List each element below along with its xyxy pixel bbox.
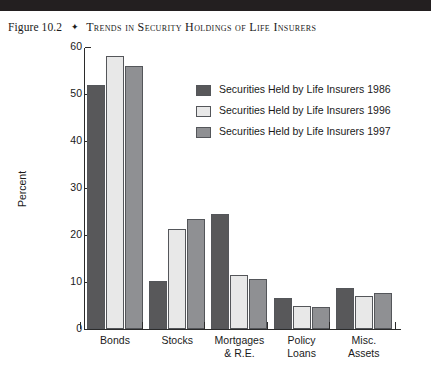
- figure-number: Figure 10.2: [8, 21, 62, 33]
- bar: [293, 306, 311, 329]
- diamond-icon: ✦: [62, 22, 86, 32]
- x-axis-tick-mark: [80, 322, 81, 329]
- page-header-rule: [0, 0, 431, 11]
- bar: [230, 275, 248, 329]
- legend-swatch: [196, 127, 211, 138]
- bar: [274, 298, 292, 329]
- legend-label: Securities Held by Life Insurers 1986: [219, 83, 391, 95]
- y-axis-title: Percent: [16, 171, 28, 207]
- x-axis-tick-mark: [267, 322, 268, 329]
- x-axis-tick-mark: [204, 322, 205, 329]
- chart-legend: Securities Held by Life Insurers 1986Sec…: [196, 83, 416, 146]
- bar: [211, 214, 229, 329]
- bar: [336, 288, 354, 329]
- y-axis-title-container: Percent: [26, 48, 46, 330]
- legend-swatch: [196, 106, 211, 117]
- x-axis-label-line: Assets: [319, 347, 409, 360]
- figure-page: Figure 10.2✦Trends in Security Holdings …: [0, 0, 431, 383]
- bar-chart: Percent 0102030405060 BondsStocksMortgag…: [0, 34, 431, 383]
- legend-swatch: [196, 85, 211, 96]
- figure-title: Trends in Security Holdings of Life Insu…: [86, 20, 316, 34]
- y-axis-tick-label: 50: [70, 87, 82, 99]
- bar: [187, 219, 205, 329]
- bar: [168, 229, 186, 329]
- legend-item: Securities Held by Life Insurers 1996: [196, 104, 416, 125]
- bar-group: [87, 47, 145, 329]
- bar: [106, 56, 124, 329]
- legend-item: Securities Held by Life Insurers 1997: [196, 125, 416, 146]
- y-axis-tick-label: 30: [70, 181, 82, 193]
- y-axis-tick-label: 60: [70, 40, 82, 52]
- y-axis-tick-label: 10: [70, 275, 82, 287]
- bar: [374, 293, 392, 329]
- legend-item: Securities Held by Life Insurers 1986: [196, 83, 416, 104]
- bar: [312, 307, 330, 329]
- legend-label: Securities Held by Life Insurers 1997: [219, 125, 391, 137]
- y-axis-tick-label: 20: [70, 228, 82, 240]
- x-axis-tick-mark: [395, 322, 396, 329]
- bar: [149, 281, 167, 329]
- y-axis-tick-label: 40: [70, 134, 82, 146]
- legend-label: Securities Held by Life Insurers 1996: [219, 104, 391, 116]
- x-axis-tick-mark: [142, 322, 143, 329]
- figure-caption: Figure 10.2✦Trends in Security Holdings …: [8, 17, 316, 35]
- bar: [87, 85, 105, 329]
- x-axis-label-line: Misc.: [319, 334, 409, 347]
- bar: [355, 296, 373, 329]
- x-axis-label: Misc.Assets: [319, 334, 409, 360]
- bar: [249, 279, 267, 329]
- bar: [125, 66, 143, 329]
- x-axis-tick-mark: [329, 322, 330, 329]
